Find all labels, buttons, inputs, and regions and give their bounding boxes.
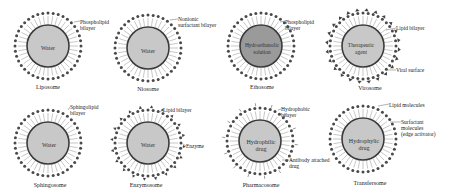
niosome-core-text: Water [123,48,173,55]
virosome-name: Virosome [330,85,410,91]
liposome-core-text: Water [23,45,73,52]
niosome-name: Niosome [108,86,188,92]
sphingosome-core-text: Water [24,142,74,149]
liposome-name: Liposome [8,84,88,90]
enzymosome-core-text: Water [123,142,173,149]
sphingosome-name: Sphingosome [10,182,90,188]
pharmacosome-name: Pharmacosome [221,182,301,188]
transfersome-lipid-label: Lipid molecules [389,102,425,108]
enzymosome-name: Enzymosome [106,182,186,188]
enzymosome-lipid-label: Lipid bilayer [163,107,192,113]
pharmacosome-antibody-label: Antibody attached drug [289,157,329,169]
transfersome-core-text: Hydrophylic drug [339,138,389,151]
liposome-bilayer-label: Phospholipid bilayer [80,19,109,31]
ethosome-bilayer-label: Phospholipid bilayer [285,19,314,31]
pharmacosome-core-text: Hydrophilic drug [236,139,286,152]
enzymosome-enzyme-label: Enzyme [186,143,204,149]
virosome-lipid-label: Lipid bilayer [396,25,425,31]
virosome-core-text: Therapeutic agent [336,42,386,55]
virosome-viral-label: Viral surface [396,67,424,73]
vesicle-graphics [0,0,450,196]
niosome-bilayer-label: Nonionic surfactant bilayer [178,16,216,28]
vesicle-diagram: Water Phospholipid bilayer Liposome Wate… [0,0,450,196]
pharmacosome-bilayer-label: Hydrophobic bilayer [281,106,310,118]
sphingosome-bilayer-label: Sphingolipid bilayer [70,104,98,116]
ethosome-name: Ethosome [222,84,302,90]
transfersome-name: Transfersome [330,180,410,186]
transfersome-surfactant-label: Surfactant molecules (edge activator) [401,119,436,137]
ethosome-core-text: Hydroethanolic solution [237,42,287,55]
